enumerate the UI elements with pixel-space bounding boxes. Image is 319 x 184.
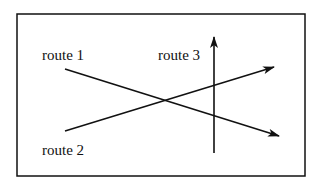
route-3-label: route 3 [158, 47, 200, 63]
route-1-arrow [65, 69, 279, 136]
route-2-label: route 2 [42, 142, 84, 158]
route-diagram: route 1 route 2 route 3 [0, 0, 319, 184]
route-1-label: route 1 [42, 47, 84, 63]
route-2-arrow [65, 67, 274, 131]
